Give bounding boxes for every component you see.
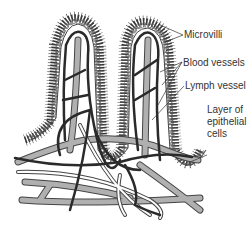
label-epithelial-line3: cells xyxy=(207,128,227,140)
label-epithelial-line1: Layer of xyxy=(207,104,243,116)
label-microvilli: Microvilli xyxy=(184,29,222,41)
label-blood-vessels: Blood vessels xyxy=(183,57,245,69)
label-lymph-vessel: Lymph vessel xyxy=(185,80,246,92)
label-epithelial-line2: epithelial xyxy=(207,116,246,128)
leader-lines xyxy=(152,25,207,162)
